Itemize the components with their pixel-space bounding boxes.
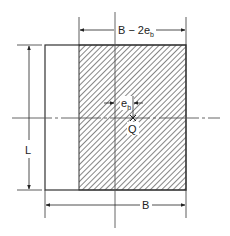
load-label: Q (128, 123, 137, 135)
effective-width-label: B − 2eb (118, 24, 154, 38)
footing-diagram: B − 2eb eb Q L B (0, 0, 230, 236)
length-label: L (25, 144, 31, 156)
width-label: B (142, 199, 149, 211)
